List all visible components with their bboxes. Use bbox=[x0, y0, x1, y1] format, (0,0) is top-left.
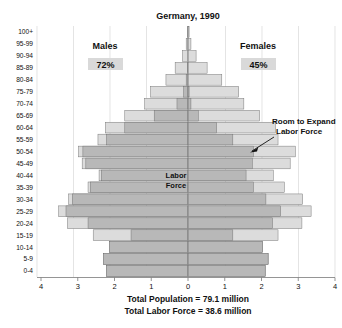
bar-females-total-75-79 bbox=[188, 86, 239, 97]
bar-females-labor-force-40-44 bbox=[188, 170, 246, 181]
bar-males-labor-force-55-59 bbox=[106, 134, 188, 145]
bar-females-labor-force-25-29 bbox=[188, 206, 281, 217]
x-tick-label-8: 4 bbox=[333, 282, 337, 291]
x-tick-label-5: 1 bbox=[223, 282, 227, 291]
age-label-70-74: 70-74 bbox=[16, 100, 33, 107]
x-axis-tick-labels: 432101234 bbox=[39, 282, 337, 291]
bar-females-labor-force-45-49 bbox=[188, 158, 252, 169]
x-tick-label-3: 1 bbox=[149, 282, 153, 291]
room-to-expand-annotation-line1: Room to Expand bbox=[272, 117, 336, 126]
x-tick-label-2: 2 bbox=[112, 282, 116, 291]
bar-females-total-70-74 bbox=[188, 98, 244, 109]
population-pyramid-chart: 0-45-910-1415-1920-2425-2930-3435-3940-4… bbox=[0, 0, 342, 328]
bar-males-labor-force-70-74 bbox=[177, 98, 188, 109]
x-tick-label-6: 2 bbox=[259, 282, 263, 291]
age-label-20-24: 20-24 bbox=[16, 220, 33, 227]
bar-females-labor-force-35-39 bbox=[188, 182, 253, 193]
bar-females-total-80-84 bbox=[188, 74, 222, 85]
bar-males-total-80-84 bbox=[166, 74, 188, 85]
age-label-5-9: 5-9 bbox=[23, 255, 33, 262]
females-pct-value: 45% bbox=[249, 60, 267, 70]
bar-females-total-95-99 bbox=[188, 39, 191, 50]
age-label-50-54: 50-54 bbox=[16, 148, 33, 155]
bar-males-labor-force-50-54 bbox=[83, 146, 188, 157]
bar-females-labor-force-15-19 bbox=[188, 230, 233, 241]
age-label-35-39: 35-39 bbox=[16, 184, 33, 191]
bar-males-labor-force-60-64 bbox=[125, 122, 188, 133]
age-label-30-34: 30-34 bbox=[16, 196, 33, 203]
bar-males-labor-force-10-14 bbox=[110, 242, 188, 253]
bar-males-labor-force-0-4 bbox=[106, 266, 188, 277]
total-population-footnote: Total Population = 79.1 million bbox=[127, 294, 249, 304]
total-labor-force-footnote: Total Labor Force = 38.6 million bbox=[124, 306, 251, 316]
age-label-10-14: 10-14 bbox=[16, 244, 33, 251]
bar-females-labor-force-70-74 bbox=[188, 98, 191, 109]
males-pct-value: 72% bbox=[96, 60, 114, 70]
bar-females-labor-force-20-24 bbox=[188, 218, 273, 229]
bar-females-labor-force-5-9 bbox=[188, 254, 268, 265]
bar-females-labor-force-50-54 bbox=[188, 146, 253, 157]
bar-females-labor-force-0-4 bbox=[188, 266, 265, 277]
bar-males-total-75-79 bbox=[151, 86, 188, 97]
bar-females-labor-force-10-14 bbox=[188, 242, 262, 253]
bar-males-total-90-94 bbox=[182, 51, 188, 62]
bar-females-total-65-69 bbox=[188, 110, 260, 121]
age-label-100+: 100+ bbox=[18, 28, 33, 35]
chart-title: Germany, 1990 bbox=[156, 11, 219, 21]
labor-force-center-label-line1: Labor bbox=[166, 171, 187, 180]
bar-females-total-90-94 bbox=[188, 51, 196, 62]
bar-females-labor-force-60-64 bbox=[188, 122, 217, 133]
age-label-60-64: 60-64 bbox=[16, 124, 33, 131]
age-label-45-49: 45-49 bbox=[16, 160, 33, 167]
x-tick-label-7: 3 bbox=[296, 282, 300, 291]
x-tick-label-4: 0 bbox=[186, 282, 190, 291]
bar-females-labor-force-65-69 bbox=[188, 110, 198, 121]
age-label-40-44: 40-44 bbox=[16, 172, 33, 179]
room-to-expand-annotation-line2: Labor Force bbox=[276, 127, 323, 136]
bar-males-labor-force-25-29 bbox=[66, 206, 188, 217]
age-label-65-69: 65-69 bbox=[16, 112, 33, 119]
age-label-15-19: 15-19 bbox=[16, 232, 33, 239]
females-label: Females bbox=[240, 41, 276, 51]
age-label-85-89: 85-89 bbox=[16, 64, 33, 71]
bar-males-labor-force-45-49 bbox=[86, 158, 188, 169]
age-label-55-59: 55-59 bbox=[16, 136, 33, 143]
bar-males-labor-force-75-79 bbox=[184, 86, 188, 97]
x-tick-label-0: 4 bbox=[39, 282, 43, 291]
age-label-0-4: 0-4 bbox=[23, 267, 33, 274]
bar-males-total-85-89 bbox=[175, 62, 188, 73]
age-label-25-29: 25-29 bbox=[16, 208, 33, 215]
bar-males-labor-force-5-9 bbox=[103, 254, 188, 265]
bar-females-labor-force-30-34 bbox=[188, 194, 266, 205]
x-tick-label-1: 3 bbox=[76, 282, 80, 291]
males-label: Males bbox=[92, 41, 117, 51]
x-axis-ticks bbox=[41, 278, 335, 282]
age-label-90-94: 90-94 bbox=[16, 52, 33, 59]
bar-males-labor-force-15-19 bbox=[131, 230, 188, 241]
bar-males-labor-force-65-69 bbox=[154, 110, 188, 121]
age-label-80-84: 80-84 bbox=[16, 76, 33, 83]
bar-males-labor-force-20-24 bbox=[88, 218, 188, 229]
bar-males-labor-force-30-34 bbox=[72, 194, 188, 205]
bar-females-total-85-89 bbox=[188, 62, 207, 73]
labor-force-center-label-line2: Force bbox=[166, 181, 186, 190]
age-label-95-99: 95-99 bbox=[16, 40, 33, 47]
age-group-labels: 0-45-910-1415-1920-2425-2930-3435-3940-4… bbox=[16, 28, 33, 274]
age-label-75-79: 75-79 bbox=[16, 88, 33, 95]
bar-females-labor-force-55-59 bbox=[188, 134, 233, 145]
